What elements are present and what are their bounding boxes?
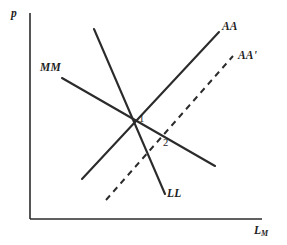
curve-label-ll: LL	[167, 188, 181, 200]
curve-aa-prime	[106, 56, 233, 200]
curve-label-mm: MM	[40, 62, 61, 74]
point-label-2: 2	[163, 138, 168, 149]
curve-label-aa: AA	[222, 21, 238, 33]
curve-ll	[94, 29, 165, 194]
y-axis-label: p	[11, 8, 17, 20]
point-label-1: 1	[139, 114, 144, 125]
curve-label-aa-prime: AA'	[238, 50, 257, 62]
x-axis-label-base: L	[254, 224, 261, 236]
x-axis-label-subscript: M	[261, 229, 268, 238]
x-axis-label: LM	[254, 225, 268, 238]
economics-diagram: p LM MM LL AA AA' 1 2	[0, 0, 287, 245]
